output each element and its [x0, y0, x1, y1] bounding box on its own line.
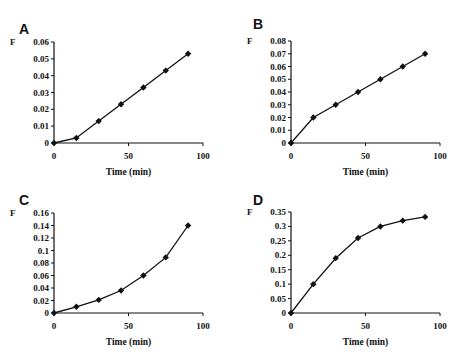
x-tick-label: 50 — [361, 321, 371, 331]
x-axis-title-c: Time (min) — [106, 337, 151, 348]
y-tick-label: 0.2 — [275, 250, 287, 260]
chart-plot-b: 00.010.020.030.040.050.060.070.08F050100… — [231, 0, 462, 180]
x-tick-label: 50 — [361, 151, 371, 161]
x-axis-title-a: Time (min) — [106, 167, 151, 178]
x-tick-label: 100 — [196, 151, 210, 161]
chart-panel-d: D 00.050.10.150.20.250.30.35F050100Time … — [231, 180, 462, 360]
y-tick-label: 0.14 — [33, 221, 49, 231]
x-axis-title-d: Time (min) — [343, 337, 388, 348]
diamond-marker — [96, 297, 102, 303]
y-tick-label: 0.12 — [33, 233, 49, 243]
y-tick-label: 0.03 — [33, 88, 49, 98]
y-axis-title-b: F — [247, 36, 253, 46]
diamond-marker — [333, 102, 339, 108]
data-line-c — [54, 226, 188, 314]
y-tick-label: 0.02 — [33, 104, 49, 114]
diamond-marker — [422, 214, 428, 220]
y-tick-label: 0.16 — [33, 208, 49, 218]
diamond-marker — [400, 217, 406, 223]
y-tick-label: 0.15 — [270, 265, 286, 275]
diamond-marker — [51, 310, 57, 316]
y-tick-label: 0 — [282, 308, 287, 318]
y-tick-label: 0.1 — [275, 279, 287, 289]
y-tick-label: 0.08 — [270, 36, 286, 46]
x-tick-label: 50 — [124, 321, 134, 331]
y-tick-label: 0.03 — [270, 100, 286, 110]
y-tick-label: 0.25 — [270, 236, 286, 246]
y-tick-label: 0.05 — [270, 74, 286, 84]
x-tick-label: 100 — [433, 151, 447, 161]
y-tick-label: 0.3 — [275, 221, 287, 231]
y-tick-label: 0.05 — [33, 54, 49, 64]
y-tick-label: 0.01 — [270, 125, 286, 135]
chart-panel-a: A 00.010.020.030.040.050.06F050100Time (… — [0, 0, 231, 180]
y-tick-label: 0.08 — [33, 258, 49, 268]
x-tick-label: 50 — [124, 151, 134, 161]
y-tick-label: 0 — [282, 138, 287, 148]
y-axis-title-d: F — [247, 207, 253, 217]
chart-plot-d: 00.050.10.150.20.250.30.35F050100Time (m… — [231, 180, 462, 360]
y-tick-label: 0.01 — [33, 121, 49, 131]
chart-plot-a: 00.010.020.030.040.050.06F050100Time (mi… — [0, 0, 231, 180]
y-tick-label: 0.02 — [270, 113, 286, 123]
diamond-marker — [51, 140, 57, 146]
y-tick-label: 0.07 — [270, 49, 286, 59]
y-tick-label: 0.06 — [33, 37, 49, 47]
y-tick-label: 0.35 — [270, 207, 286, 217]
x-tick-label: 0 — [289, 151, 294, 161]
diamond-marker — [422, 51, 428, 57]
chart-plot-c: 00.020.040.060.080.10.120.140.16F050100T… — [0, 180, 231, 360]
y-tick-label: 0 — [45, 138, 50, 148]
y-tick-label: 0.05 — [270, 294, 286, 304]
x-tick-label: 100 — [433, 321, 447, 331]
y-axis-title-a: F — [10, 37, 16, 47]
diamond-marker — [377, 76, 383, 82]
y-tick-label: 0 — [45, 308, 50, 318]
data-line-d — [291, 217, 425, 313]
y-tick-label: 0.06 — [33, 271, 49, 281]
y-tick-label: 0.06 — [270, 62, 286, 72]
y-tick-label: 0.04 — [33, 71, 49, 81]
diamond-marker — [400, 63, 406, 69]
x-tick-label: 0 — [52, 151, 57, 161]
x-axis-title-b: Time (min) — [343, 167, 388, 178]
x-tick-label: 100 — [196, 321, 210, 331]
y-tick-label: 0.02 — [33, 296, 49, 306]
diamond-marker — [73, 304, 79, 310]
diamond-marker — [377, 223, 383, 229]
data-line-a — [54, 54, 188, 143]
y-axis-title-c: F — [10, 208, 16, 218]
chart-panel-c: C 00.020.040.060.080.10.120.140.16F05010… — [0, 180, 231, 360]
y-tick-label: 0.1 — [38, 246, 50, 256]
chart-panel-b: B 00.010.020.030.040.050.060.070.08F0501… — [231, 0, 462, 180]
y-tick-label: 0.04 — [33, 283, 49, 293]
y-tick-label: 0.04 — [270, 87, 286, 97]
diamond-marker — [355, 89, 361, 95]
x-tick-label: 0 — [52, 321, 57, 331]
x-tick-label: 0 — [289, 321, 294, 331]
